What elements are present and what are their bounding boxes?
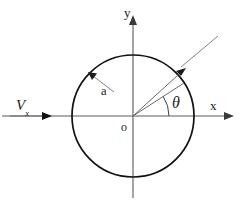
x-axis-label: x — [210, 99, 217, 112]
velocity-arrowhead — [42, 112, 52, 120]
x-axis-arrowhead — [224, 112, 234, 120]
theta-arc — [163, 96, 169, 116]
angle-theta-label: θ — [172, 95, 180, 111]
velocity-subscript: x — [25, 108, 29, 118]
radius-label: a — [101, 85, 107, 98]
surface-point-leader-line — [181, 36, 218, 67]
velocity-symbol: V — [16, 97, 25, 113]
radius-leader-arrowhead — [88, 72, 97, 80]
origin-label: o — [121, 121, 127, 133]
figure-canvas: y x o a θ Vx — [0, 0, 241, 218]
y-axis-label: y — [124, 6, 131, 19]
free-stream-velocity-label: Vx — [16, 98, 29, 116]
figure-drawing — [0, 0, 241, 218]
